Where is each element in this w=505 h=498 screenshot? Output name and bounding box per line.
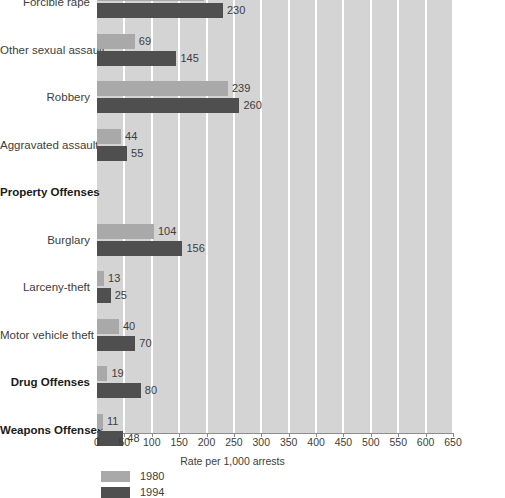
- chart-group-header-row: Drug Offenses1980: [0, 366, 505, 398]
- bar-1980-forcible-rape: [97, 0, 204, 1]
- bar-1980-weapons-offenses: [97, 414, 103, 429]
- bar-value-1994: 25: [115, 288, 127, 303]
- bar-1994-drug-offenses: [97, 383, 141, 398]
- legend-swatch-1994: [101, 487, 130, 498]
- x-axis-title: Rate per 1,000 arrests: [0, 455, 505, 467]
- legend-label-1980: 1980: [140, 470, 164, 483]
- bar-1994-forcible-rape: [97, 3, 223, 18]
- bar-1994-aggravated-assault: [97, 146, 127, 161]
- chart-row: Aggravated assault4455: [0, 129, 505, 161]
- bar-1980-larceny-theft: [97, 271, 104, 286]
- bar-value-1994: 70: [139, 336, 151, 351]
- chart-row: Larceny-theft1325: [0, 271, 505, 303]
- tick-label-600: 600: [417, 436, 435, 448]
- category-label-motor-vehicle-theft: Motor vehicle theft: [0, 329, 90, 341]
- category-label-larceny-theft: Larceny-theft: [0, 281, 90, 293]
- chart-group-header-row: Property Offenses: [0, 176, 505, 208]
- category-label-forcible-rape: Forcible rape: [0, 0, 90, 8]
- category-label-property-offenses: Property Offenses: [0, 186, 90, 198]
- legend-label-1994: 1994: [140, 486, 164, 498]
- chart-row: Burglary104156: [0, 224, 505, 256]
- tick-label-150: 150: [170, 436, 188, 448]
- bar-1980-aggravated-assault: [97, 129, 121, 144]
- chart-row: Forcible rape196230: [0, 0, 505, 18]
- category-label-other-sexual-assault: Other sexual assault: [0, 44, 90, 56]
- tick-label-450: 450: [335, 436, 353, 448]
- bar-value-1980: 44: [125, 129, 137, 144]
- bar-1980-other-sexual-assault: [97, 34, 135, 49]
- chart-row: Motor vehicle theft4070: [0, 319, 505, 351]
- bar-value-1980: 19: [111, 366, 123, 381]
- category-label-aggravated-assault: Aggravated assault: [0, 139, 90, 151]
- tick-label-650: 650: [444, 436, 462, 448]
- tick-label-200: 200: [198, 436, 216, 448]
- bar-value-1994: 55: [131, 146, 143, 161]
- bar-1994-robbery: [97, 98, 239, 113]
- bar-1980-motor-vehicle-theft: [97, 319, 119, 334]
- bar-1980-drug-offenses: [97, 366, 107, 381]
- tick-label-50: 50: [119, 436, 131, 448]
- tick-label-0: 0: [94, 436, 100, 448]
- category-label-burglary: Burglary: [0, 234, 90, 246]
- chart-row: Other sexual assault69145: [0, 34, 505, 66]
- legend-swatch-1980: [101, 471, 130, 482]
- bar-1994-larceny-theft: [97, 288, 111, 303]
- tick-label-500: 500: [362, 436, 380, 448]
- chart-row: Robbery239260: [0, 81, 505, 113]
- tick-label-300: 300: [253, 436, 271, 448]
- bar-value-1980: 11: [107, 414, 118, 429]
- bar-value-1980: 40: [123, 319, 135, 334]
- bar-value-1994: 156: [186, 241, 204, 256]
- bar-1994-burglary: [97, 241, 182, 256]
- bar-1980-robbery: [97, 81, 228, 96]
- bar-value-1980: 196: [208, 0, 226, 1]
- tick-label-550: 550: [389, 436, 407, 448]
- category-label-weapons-offenses: Weapons Offenses: [0, 424, 90, 436]
- tick-label-250: 250: [225, 436, 243, 448]
- tick-label-100: 100: [143, 436, 161, 448]
- bar-1994-other-sexual-assault: [97, 51, 176, 66]
- tick-label-400: 400: [307, 436, 325, 448]
- bar-1994-motor-vehicle-theft: [97, 336, 135, 351]
- bar-value-1994: 230: [227, 3, 245, 18]
- category-label-drug-offenses: Drug Offenses: [0, 376, 90, 388]
- bar-chart: Forcible rape196230Other sexual assault6…: [0, 0, 505, 498]
- bar-value-1994: 80: [145, 383, 157, 398]
- bar-value-1980: 104: [158, 224, 176, 239]
- bar-value-1980: 69: [139, 34, 151, 49]
- bar-value-1994: 145: [180, 51, 198, 66]
- tick-label-350: 350: [280, 436, 298, 448]
- bar-value-1980: 13: [108, 271, 120, 286]
- x-axis-title-text: Rate per 1,000 arrests: [180, 455, 284, 467]
- bar-value-1980: 239: [232, 81, 250, 96]
- bar-value-1994: 260: [243, 98, 261, 113]
- bar-1980-burglary: [97, 224, 154, 239]
- category-label-robbery: Robbery: [0, 91, 90, 103]
